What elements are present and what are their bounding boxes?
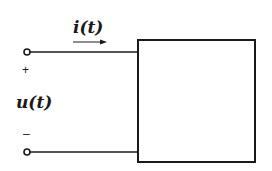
circuit-diagram: i(t) + u(t) – (0, 0, 272, 171)
terminal-bottom (24, 149, 30, 155)
terminal-top (24, 49, 30, 55)
current-arrow-icon (73, 40, 107, 45)
current-label: i(t) (73, 17, 103, 37)
plus-sign: + (22, 63, 29, 77)
minus-sign: – (23, 127, 30, 141)
voltage-label: u(t) (16, 92, 52, 112)
network-box (138, 40, 255, 162)
